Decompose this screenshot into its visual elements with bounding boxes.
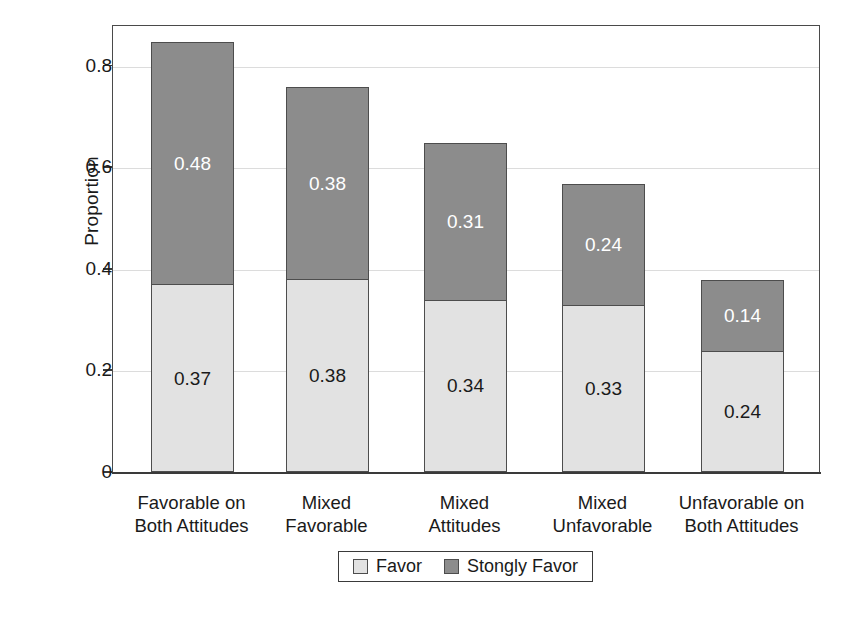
chart-legend: FavorStongly Favor (338, 551, 593, 582)
bar-segment-favor[interactable]: 0.34 (424, 299, 507, 472)
x-category-label-line: Unfavorable on (652, 491, 832, 514)
bar-segment-favor[interactable]: 0.38 (286, 279, 369, 472)
legend-entry[interactable]: Favor (353, 556, 422, 577)
bar-value-label: 0.24 (724, 402, 761, 421)
bar-value-label: 0.38 (309, 366, 346, 385)
legend-label: Favor (376, 556, 422, 577)
bar-segment-favor[interactable]: 0.33 (562, 304, 645, 472)
bar-segment-strongly-favor[interactable]: 0.31 (424, 143, 507, 300)
y-tick-label: 0.6 (38, 156, 112, 178)
y-tick-label: 0 (38, 461, 112, 483)
bar-value-label: 0.31 (447, 212, 484, 231)
legend-swatch-strong (444, 559, 459, 574)
bar-segment-strongly-favor[interactable]: 0.38 (286, 87, 369, 280)
bar-segment-strongly-favor[interactable]: 0.14 (701, 280, 784, 351)
y-tick-label: 0.2 (38, 359, 112, 381)
legend-label: Stongly Favor (467, 556, 578, 577)
x-axis-baseline (112, 472, 821, 474)
bar-segment-favor[interactable]: 0.24 (701, 350, 784, 472)
bar-value-label: 0.48 (174, 154, 211, 173)
bar-value-label: 0.37 (174, 369, 211, 388)
bar-value-label: 0.14 (724, 306, 761, 325)
y-tick-label: 0.8 (38, 55, 112, 77)
plot-area: 0.370.480.380.380.340.310.330.240.240.14 (112, 25, 820, 474)
x-category-label: Unfavorable onBoth Attitudes (652, 491, 832, 537)
legend-swatch-favor (353, 559, 368, 574)
bar-segment-strongly-favor[interactable]: 0.24 (562, 184, 645, 306)
bar-value-label: 0.34 (447, 376, 484, 395)
stacked-bar-chart: Proportion 00.20.40.60.8 0.370.480.380.3… (0, 0, 847, 617)
y-tick-label: 0.4 (38, 258, 112, 280)
bar-segment-favor[interactable]: 0.37 (151, 284, 234, 472)
bar-value-label: 0.33 (585, 379, 622, 398)
bar-value-label: 0.24 (585, 235, 622, 254)
bar-segment-strongly-favor[interactable]: 0.48 (151, 42, 234, 286)
x-category-label-line: Both Attitudes (652, 514, 832, 537)
legend-entry[interactable]: Stongly Favor (444, 556, 578, 577)
bar-value-label: 0.38 (309, 174, 346, 193)
y-axis: 00.20.40.60.8 (0, 0, 112, 617)
